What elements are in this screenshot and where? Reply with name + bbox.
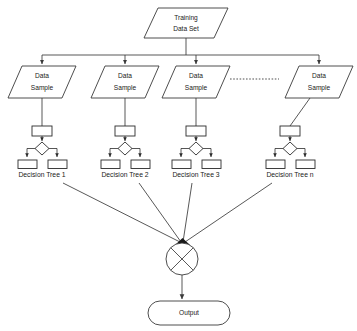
tree-leaf-right bbox=[131, 160, 150, 169]
converge-line-3 bbox=[183, 183, 192, 242]
tree-root-node bbox=[186, 126, 206, 136]
training-data-set-line1: Training bbox=[174, 14, 198, 22]
decision-tree-label: Decision Tree n bbox=[266, 171, 313, 178]
decision-tree-3: Decision Tree 3 bbox=[172, 126, 221, 178]
tree-leaf-left bbox=[101, 160, 120, 169]
tree-split-right-branch bbox=[297, 149, 305, 158]
tree-leaf-left bbox=[172, 160, 191, 169]
tree-split-diamond bbox=[35, 142, 49, 155]
training-data-set-parallelogram bbox=[144, 8, 228, 38]
tree-leaf-right bbox=[202, 160, 221, 169]
output-node: Output bbox=[148, 301, 230, 325]
data-sample-line2: Sample bbox=[185, 84, 208, 92]
tree-split-right-branch bbox=[132, 149, 140, 158]
tree-root-node bbox=[280, 126, 300, 136]
decision-tree-label: Decision Tree 2 bbox=[101, 171, 148, 178]
data-sample-node-4: Data Sample bbox=[285, 66, 353, 98]
converge-line-4 bbox=[185, 183, 272, 242]
output-label: Output bbox=[179, 309, 199, 317]
converge-line-2 bbox=[139, 183, 181, 242]
tree-split-diamond bbox=[283, 142, 297, 155]
tree-leaf-left bbox=[266, 160, 285, 169]
tree-split-left-branch bbox=[275, 149, 283, 158]
convergence-lines bbox=[63, 183, 272, 245]
tree-split-left-branch bbox=[27, 149, 35, 158]
decision-tree-2: Decision Tree 2 bbox=[101, 126, 150, 178]
sample-to-tree-connectors bbox=[42, 98, 310, 126]
data-sample-node-3: Data Sample bbox=[162, 66, 230, 98]
tree-root-node bbox=[115, 126, 135, 136]
data-sample-node-1: Data Sample bbox=[8, 66, 76, 98]
decision-tree-n: Decision Tree n bbox=[266, 126, 315, 178]
distribution-bus bbox=[42, 38, 319, 64]
aggregation-node bbox=[166, 243, 198, 275]
tree-split-left-branch bbox=[110, 149, 118, 158]
data-sample-line2: Sample bbox=[31, 84, 54, 92]
tree-split-diamond bbox=[118, 142, 132, 155]
tree-split-diamond bbox=[189, 142, 203, 155]
tree-split-right-branch bbox=[49, 149, 57, 158]
tree-split-right-branch bbox=[203, 149, 211, 158]
decision-tree-label: Decision Tree 1 bbox=[18, 171, 65, 178]
decision-tree-label: Decision Tree 3 bbox=[172, 171, 219, 178]
data-sample-line2: Sample bbox=[114, 84, 137, 92]
tree-root-node bbox=[32, 126, 52, 136]
converge-line-1 bbox=[63, 183, 180, 242]
tree-leaf-left bbox=[18, 160, 37, 169]
sample-to-tree-stem-4 bbox=[290, 98, 310, 126]
training-data-set-line2: Data Set bbox=[173, 25, 199, 32]
data-sample-node-2: Data Sample bbox=[91, 66, 159, 98]
tree-split-left-branch bbox=[181, 149, 189, 158]
training-data-set-node: Training Data Set bbox=[144, 8, 228, 38]
data-sample-line1: Data bbox=[189, 72, 203, 79]
tree-leaf-right bbox=[296, 160, 315, 169]
data-sample-line1: Data bbox=[35, 72, 49, 79]
decision-tree-1: Decision Tree 1 bbox=[18, 126, 67, 178]
data-sample-line2: Sample bbox=[308, 84, 331, 92]
random-forest-diagram: Training Data Set Data Sample Data Sampl… bbox=[0, 0, 357, 331]
data-sample-line1: Data bbox=[312, 72, 326, 79]
tree-leaf-right bbox=[48, 160, 67, 169]
data-sample-line1: Data bbox=[118, 72, 132, 79]
